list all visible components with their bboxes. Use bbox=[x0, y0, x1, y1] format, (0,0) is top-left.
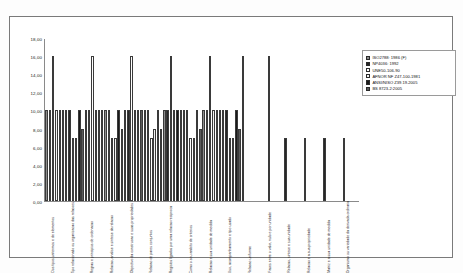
x-axis-label-slot: Como o seu ambito de criterios bbox=[182, 225, 202, 273]
bar bbox=[75, 138, 77, 201]
bar-group bbox=[320, 39, 340, 201]
x-axis-tick-label: Como o seu ambito de criterios bbox=[190, 225, 194, 273]
bar bbox=[212, 110, 214, 201]
x-axis-label-slot: Relacao de pares conjuntos bbox=[142, 230, 162, 273]
bar bbox=[222, 110, 224, 201]
bar bbox=[216, 110, 218, 201]
bar-group bbox=[45, 39, 65, 201]
legend-item[interactable]: UNE50-106-90 bbox=[366, 68, 452, 73]
legend-swatch-icon bbox=[366, 62, 370, 66]
y-axis-tick-label: 18,00 bbox=[31, 37, 43, 42]
legend-label: ISO2788: 1986 (F) bbox=[372, 55, 406, 60]
bar-group bbox=[143, 39, 163, 201]
x-axis-label-slot: Registos ligados por uma relacao recipro… bbox=[162, 206, 182, 273]
bar bbox=[65, 110, 67, 201]
bar-group bbox=[202, 39, 222, 201]
bar bbox=[72, 138, 74, 201]
bar bbox=[104, 110, 106, 201]
legend-item[interactable]: BS 8723-2:2005 bbox=[366, 86, 452, 91]
bar bbox=[111, 138, 113, 201]
y-axis-tick-label: 12,00 bbox=[31, 91, 43, 96]
plot-area: 0,002,004,006,008,0010,0012,0014,0016,00… bbox=[44, 39, 359, 202]
bar bbox=[323, 138, 325, 201]
y-axis-tick-label: 6,00 bbox=[33, 145, 42, 150]
bar bbox=[147, 110, 149, 201]
bar bbox=[173, 110, 175, 201]
bar bbox=[232, 138, 234, 201]
bar bbox=[183, 110, 185, 201]
y-axis-tick-label: 2,00 bbox=[33, 181, 42, 186]
legend-item[interactable]: NP4036: 1992 bbox=[366, 61, 452, 66]
x-axis-label-slot: Fases entre o valor, nulo e por unidade bbox=[261, 212, 281, 273]
x-axis-label-slot: Objectivo da construcao e suas proprieda… bbox=[123, 203, 143, 273]
bar-group bbox=[182, 39, 202, 201]
bar bbox=[225, 110, 227, 201]
x-axis-tick-label: Uso, acompanhamento e tipo usado bbox=[229, 217, 233, 273]
bar bbox=[127, 110, 129, 201]
bar bbox=[150, 138, 152, 201]
bar bbox=[144, 110, 146, 201]
x-axis-tick-label: Relacao, sintese e sua unidade bbox=[288, 224, 292, 273]
x-axis-tick-label: Fases entre o valor, nulo e por unidade bbox=[269, 212, 273, 273]
bar bbox=[55, 110, 57, 201]
x-axis-label-slot: Uso, acompanhamento e tipo usado bbox=[221, 217, 241, 273]
bar bbox=[229, 138, 231, 201]
bar bbox=[52, 56, 54, 201]
bar bbox=[193, 138, 195, 201]
bar bbox=[137, 110, 139, 201]
y-axis-tick-label: 8,00 bbox=[33, 127, 42, 132]
bar bbox=[235, 110, 237, 201]
y-axis-tick-label: 16,00 bbox=[31, 55, 43, 60]
bar bbox=[114, 138, 116, 201]
bar bbox=[134, 110, 136, 201]
bar bbox=[91, 56, 93, 201]
bar-group bbox=[84, 39, 104, 201]
bar-group bbox=[339, 39, 359, 201]
x-axis-tick-label: Relacao de pares conjuntos bbox=[150, 230, 154, 273]
x-axis-tick-label: Relacao e a sua propriedade bbox=[308, 228, 312, 273]
bar bbox=[124, 110, 126, 201]
x-axis-tick-label: Dos tipos unitermos e de elementos bbox=[52, 217, 56, 273]
x-axis-label-slot: Relacao, sintese e sua unidade bbox=[280, 224, 300, 273]
bar bbox=[202, 110, 204, 201]
legend-swatch-icon bbox=[366, 80, 370, 84]
bar bbox=[117, 110, 119, 201]
bar bbox=[206, 110, 208, 201]
bar-group bbox=[241, 39, 261, 201]
bar-group bbox=[222, 39, 242, 201]
legend-item[interactable]: AFNOR NF Z47-100-1981 bbox=[366, 74, 452, 79]
bar-group bbox=[65, 39, 85, 201]
x-axis-label-group: Dos tipos unitermos e de elementosTipo r… bbox=[44, 203, 359, 273]
bar bbox=[78, 110, 80, 201]
bar-group bbox=[163, 39, 183, 201]
bar-group bbox=[261, 39, 281, 201]
y-axis-tick-label: 10,00 bbox=[31, 109, 43, 114]
legend-label: AFNOR NF Z47-100-1981 bbox=[372, 74, 420, 79]
x-axis-label-slot: Tipo relacionado ou organizacao das rela… bbox=[64, 202, 84, 273]
bar bbox=[304, 138, 306, 201]
bar bbox=[88, 110, 90, 201]
chart-frame: 0,002,004,006,008,0010,0012,0014,0016,00… bbox=[9, 16, 453, 258]
x-axis-label-slot: Relacao e a sua propriedade bbox=[300, 228, 320, 273]
legend-swatch-icon bbox=[366, 87, 370, 91]
bar bbox=[189, 138, 191, 201]
bar bbox=[153, 129, 155, 201]
y-axis-tick-label: 0,00 bbox=[33, 200, 42, 205]
legend-item[interactable]: ANSI/NISO Z39.19-2005 bbox=[366, 80, 452, 85]
x-axis-label-slot: Relacao e sua unidade de medida bbox=[202, 220, 222, 273]
bar-group bbox=[104, 39, 124, 201]
x-axis-tick-label: Regras e principios de ordenacao bbox=[91, 221, 95, 273]
y-axis-tick-label: 4,00 bbox=[33, 163, 42, 168]
bar bbox=[209, 56, 211, 201]
x-axis-tick-label: Relacao e sua unidade de medida bbox=[210, 220, 214, 273]
x-axis-label-slot: Relacao, analise e sintese da relacao bbox=[103, 215, 123, 273]
bar bbox=[176, 110, 178, 201]
legend-swatch-icon bbox=[366, 68, 370, 72]
x-axis-tick-label: Relacao uniforme bbox=[249, 246, 253, 273]
legend-item[interactable]: ISO2788: 1986 (F) bbox=[366, 55, 452, 60]
bar bbox=[170, 56, 172, 201]
legend-label: NP4036: 1992 bbox=[372, 61, 398, 66]
legend-label: UNE50-106-90 bbox=[372, 68, 399, 73]
bar-series-layer bbox=[45, 39, 359, 201]
x-axis-tick-label: Organismo ou variedade da derivada ordin… bbox=[347, 201, 351, 273]
